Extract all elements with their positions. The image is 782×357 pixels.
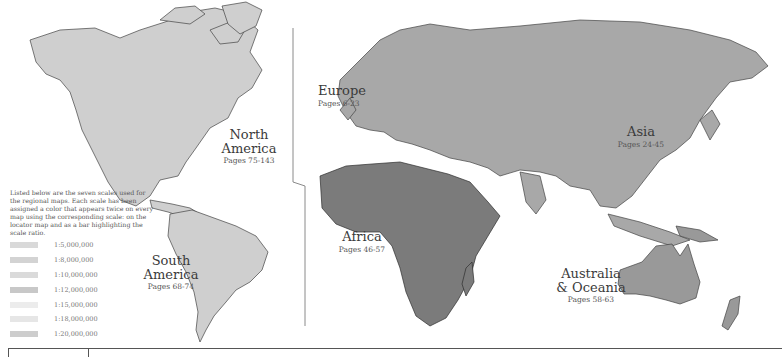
scale-swatch (10, 272, 38, 278)
region-pages: Pages 68-74 (136, 283, 206, 291)
frame-tick (8, 349, 9, 357)
scale-label: 1:5,000,000 (54, 241, 93, 249)
scale-label: 1:15,000,000 (54, 301, 98, 309)
region-label-asia[interactable]: Asia Pages 24-45 (616, 125, 666, 149)
hemisphere-divider (293, 28, 305, 326)
region-pages: Pages 6-23 (318, 100, 378, 108)
new-zealand-shape (722, 296, 740, 330)
legend-intro-text: Listed below are the seven scales used f… (10, 189, 155, 237)
frame-tick (88, 349, 89, 357)
scale-swatch (10, 316, 38, 322)
scale-label: 1:8,000,000 (54, 256, 93, 264)
scale-row: 1:15,000,000 (10, 297, 98, 312)
scale-row: 1:10,000,000 (10, 268, 98, 283)
scale-legend: 1:5,000,000 1:8,000,000 1:10,000,000 1:1… (10, 238, 98, 342)
region-name: Australia (556, 267, 626, 281)
region-name: America (214, 142, 284, 156)
region-pages: Pages 46-57 (332, 246, 392, 254)
region-name: Africa (332, 230, 392, 244)
region-name: America (136, 268, 206, 282)
region-pages: Pages 75-143 (214, 157, 284, 165)
scale-row: 1:18,000,000 (10, 312, 98, 327)
scale-label: 1:10,000,000 (54, 271, 98, 279)
scale-swatch (10, 302, 38, 308)
region-name: South (136, 254, 206, 268)
scale-swatch (10, 331, 38, 337)
scale-label: 1:20,000,000 (54, 330, 98, 338)
scale-swatch (10, 287, 38, 293)
region-label-north-america[interactable]: North America Pages 75-143 (214, 128, 284, 165)
scale-label: 1:12,000,000 (54, 286, 98, 294)
bottom-frame-rule (8, 348, 782, 355)
australia-shape[interactable] (618, 244, 700, 304)
region-label-europe[interactable]: Europe Pages 6-23 (318, 84, 378, 108)
region-label-australia-oceania[interactable]: Australia & Oceania Pages 58-63 (556, 267, 626, 304)
region-name: Asia (616, 125, 666, 139)
region-pages: Pages 58-63 (556, 296, 626, 304)
scale-row: 1:12,000,000 (10, 282, 98, 297)
scale-row: 1:5,000,000 (10, 238, 98, 253)
scale-row: 1:20,000,000 (10, 327, 98, 342)
region-name: Europe (318, 84, 378, 98)
north-america-shape[interactable] (30, 6, 262, 218)
scale-label: 1:18,000,000 (54, 315, 98, 323)
scale-swatch (10, 242, 38, 248)
region-label-africa[interactable]: Africa Pages 46-57 (332, 230, 392, 254)
region-name: & Oceania (556, 281, 626, 295)
scale-swatch (10, 257, 38, 263)
region-label-south-america[interactable]: South America Pages 68-74 (136, 254, 206, 291)
scale-row: 1:8,000,000 (10, 253, 98, 268)
region-pages: Pages 24-45 (616, 141, 666, 149)
region-name: North (214, 128, 284, 142)
